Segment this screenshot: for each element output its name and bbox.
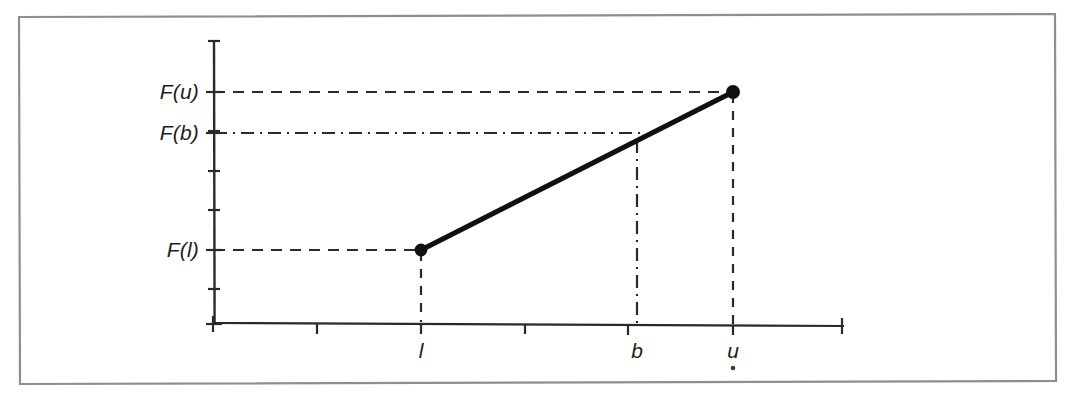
data-point-lower [415,244,428,257]
y-axis-label-fl: F(l) [167,238,199,261]
piecewise-linear-function-chart: F(u) F(b) F(l) l b u [0,0,1078,401]
y-axis-line [214,41,215,325]
figure-container: F(u) F(b) F(l) l b u [0,0,1078,401]
y-axis-label-fb: F(b) [160,121,199,144]
page-background [0,0,1078,401]
data-point-upper [726,85,740,99]
ink-speck [731,366,736,371]
y-axis-label-fu: F(u) [160,80,199,103]
x-axis-label-b: b [631,339,643,362]
x-axis-label-u: u [727,339,739,362]
